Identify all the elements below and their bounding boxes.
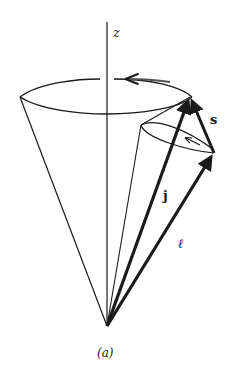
small-precession-cone [107, 97, 214, 326]
l-vector-label: ℓ [178, 236, 184, 251]
figure-caption: (a) [97, 346, 114, 360]
s-vector-label: s [210, 112, 217, 127]
vector-model-diagram: z j ℓ s (a) [0, 0, 230, 366]
z-axis-label: z [112, 25, 120, 40]
j-vector-label: j [162, 188, 168, 203]
s-vector-arrow [192, 101, 214, 153]
